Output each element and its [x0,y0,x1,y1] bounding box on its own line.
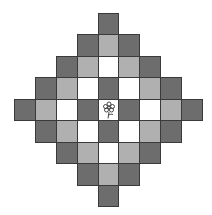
board-cell[interactable] [98,56,119,78]
board-cell[interactable] [118,163,140,186]
board-cell[interactable] [160,120,182,143]
board-cell[interactable] [98,120,119,143]
board-cell[interactable] [77,34,99,57]
board-cell[interactable] [77,120,99,143]
board-cell[interactable] [160,77,182,100]
board-cell[interactable] [35,77,57,100]
board-cell[interactable] [14,99,36,121]
board-cell[interactable] [118,99,140,121]
board-cell[interactable] [35,99,57,121]
board-cell[interactable] [98,77,119,100]
board-cell[interactable] [56,56,78,78]
board-cell[interactable] [139,56,161,78]
board-cell[interactable] [77,99,99,121]
board-cell[interactable] [118,142,140,164]
board-cell[interactable] [181,99,203,121]
board-cell[interactable] [77,163,99,186]
board-cell[interactable] [77,142,99,164]
board-cell[interactable] [160,99,182,121]
diamond-board [14,13,202,206]
board-cell[interactable] [118,56,140,78]
board-cell[interactable] [56,120,78,143]
board-cell[interactable] [98,34,119,57]
board-cell[interactable] [35,120,57,143]
board-cell[interactable] [56,99,78,121]
board-cell[interactable] [56,142,78,164]
board-cell[interactable] [98,163,119,186]
board-cell[interactable] [98,185,119,207]
board-cell[interactable] [118,34,140,57]
board-cell[interactable] [118,120,140,143]
board-cell[interactable] [98,99,119,121]
board-cell[interactable] [56,77,78,100]
board-cell[interactable] [139,142,161,164]
board-cell[interactable] [118,77,140,100]
board-cell[interactable] [77,56,99,78]
board-cell[interactable] [77,77,99,100]
board-cell[interactable] [139,77,161,100]
flower-icon [102,101,116,119]
board-cell[interactable] [98,13,119,35]
board-cell[interactable] [139,120,161,143]
board-cell[interactable] [139,99,161,121]
board-cell[interactable] [98,142,119,164]
